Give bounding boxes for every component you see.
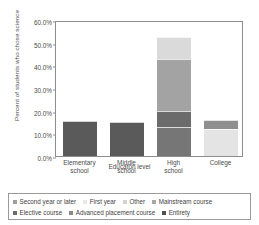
legend-item[interactable]: Elective course <box>13 209 62 216</box>
y-tick-label: 30.0% <box>34 87 52 94</box>
y-tick-mark <box>53 112 56 113</box>
legend-swatch-icon <box>123 200 127 204</box>
bar-segment[interactable] <box>157 127 191 156</box>
legend-row: Elective courseAdvanced placement course… <box>13 207 246 218</box>
y-tick-label: 0.0% <box>37 155 52 162</box>
y-tick-label: 40.0% <box>34 64 52 71</box>
legend-label: Advanced placement course <box>76 209 155 216</box>
legend-label: Entirety <box>169 209 190 216</box>
legend-item[interactable]: Mainstream course <box>152 198 212 205</box>
bar-segment[interactable] <box>204 120 238 130</box>
legend-swatch-icon <box>13 200 17 204</box>
legend-swatch-icon <box>69 211 73 215</box>
y-axis-title: Percent of students who chose science <box>13 0 20 134</box>
legend-item[interactable]: Advanced placement course <box>69 209 155 216</box>
legend-label: Second year or later <box>20 198 77 205</box>
y-tick-label: 50.0% <box>34 41 52 48</box>
y-tick-label: 10.0% <box>34 132 52 139</box>
legend-swatch-icon <box>13 211 17 215</box>
legend-swatch-icon <box>152 200 156 204</box>
legend-item[interactable]: Second year or later <box>13 198 76 205</box>
legend-item[interactable]: Other <box>123 198 145 205</box>
legend-label: Mainstream course <box>159 198 213 205</box>
bar-segment[interactable] <box>157 37 191 59</box>
legend-label: Other <box>129 198 145 205</box>
bar-segment[interactable] <box>63 121 97 156</box>
plot-area: 60.0%50.0%40.0%30.0%20.0%10.0%0.0% Eleme… <box>55 21 243 157</box>
bar-segment[interactable] <box>157 111 191 127</box>
y-tick-mark <box>53 67 56 68</box>
bar-segment[interactable] <box>157 59 191 111</box>
y-tick-mark <box>53 22 56 23</box>
bar-segment[interactable] <box>204 129 238 156</box>
chart-legend: Second year or laterFirst yearOtherMains… <box>8 193 251 220</box>
y-tick-mark <box>53 135 56 136</box>
legend-item[interactable]: Entirety <box>162 209 190 216</box>
bar-segment[interactable] <box>110 122 144 156</box>
legend-swatch-icon <box>83 200 87 204</box>
y-tick-mark <box>53 90 56 91</box>
y-tick-label: 20.0% <box>34 109 52 116</box>
x-axis-title: Educaton level <box>0 163 259 170</box>
y-tick-label: 60.0% <box>34 19 52 26</box>
legend-row: Second year or laterFirst yearOtherMains… <box>13 196 246 207</box>
chart-figure: Percent of students who chose science 60… <box>0 0 259 186</box>
legend-item[interactable]: First year <box>83 198 116 205</box>
legend-label: Elective course <box>20 209 63 216</box>
legend-swatch-icon <box>162 211 166 215</box>
y-tick-mark <box>53 44 56 45</box>
legend-label: First year <box>90 198 116 205</box>
